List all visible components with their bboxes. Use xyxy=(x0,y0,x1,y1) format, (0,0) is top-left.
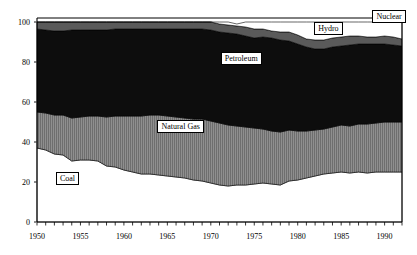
series-label-petroleum: Petroleum xyxy=(221,52,262,65)
x-tick-label-1965: 1965 xyxy=(159,232,175,241)
y-tick-label-100: 100 xyxy=(18,18,30,27)
stacked-area-chart: 0204060801001950195519601965197019751980… xyxy=(0,0,417,255)
x-tick-label-1960: 1960 xyxy=(116,232,132,241)
series-label-hydro: Hydro xyxy=(314,22,342,35)
series-label-natural-gas: Natural Gas xyxy=(157,120,203,133)
y-tick-label-40: 40 xyxy=(22,138,30,147)
x-tick-label-1970: 1970 xyxy=(203,232,219,241)
y-tick-label-20: 20 xyxy=(22,178,30,187)
y-tick-label-80: 80 xyxy=(22,58,30,67)
x-tick-label-1950: 1950 xyxy=(29,232,45,241)
series-label-coal: Coal xyxy=(56,172,79,185)
x-tick-label-1975: 1975 xyxy=(246,232,262,241)
series-label-nuclear: Nuclear xyxy=(372,10,405,23)
chart-canvas: 0204060801001950195519601965197019751980… xyxy=(0,0,417,255)
area-series-group xyxy=(37,22,402,222)
y-tick-label-60: 60 xyxy=(22,98,30,107)
x-tick-label-1990: 1990 xyxy=(377,232,393,241)
y-tick-label-0: 0 xyxy=(26,218,30,227)
x-tick-label-1985: 1985 xyxy=(333,232,349,241)
x-tick-label-1980: 1980 xyxy=(290,232,306,241)
x-tick-label-1955: 1955 xyxy=(72,232,88,241)
